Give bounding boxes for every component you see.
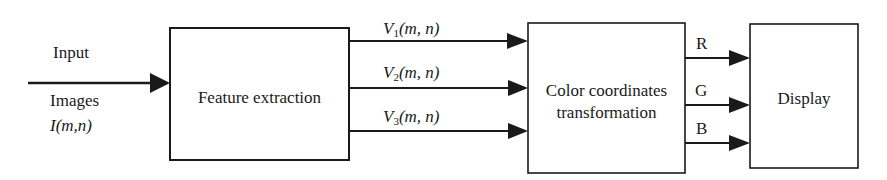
v1-args: (m, n)	[399, 19, 440, 38]
input-symbol: I(m,n)	[50, 117, 92, 134]
v1-label: V1(m, n)	[383, 20, 440, 39]
v2-var: V	[383, 63, 393, 82]
b-label: B	[696, 120, 707, 137]
display-label: Display	[750, 88, 858, 110]
images-label: Images	[50, 92, 99, 109]
color-transformation-line2: transformation	[526, 102, 687, 124]
color-transformation-label: Color coordinates transformation	[526, 80, 687, 124]
b-arrow	[685, 135, 750, 151]
v2-label: V2(m, n)	[383, 64, 440, 83]
v3-var: V	[383, 107, 393, 126]
color-transformation-line1: Color coordinates	[526, 80, 687, 102]
v3-label: V3(m, n)	[383, 108, 440, 127]
v2-args: (m, n)	[399, 63, 440, 82]
feature-extraction-label: Feature extraction	[170, 87, 349, 109]
v1-var: V	[383, 19, 393, 38]
g-label: G	[695, 82, 707, 99]
input-arrow	[28, 73, 170, 93]
input-label: Input	[53, 44, 89, 61]
v3-args: (m, n)	[399, 107, 440, 126]
r-arrow	[685, 50, 750, 66]
r-label: R	[696, 35, 707, 52]
